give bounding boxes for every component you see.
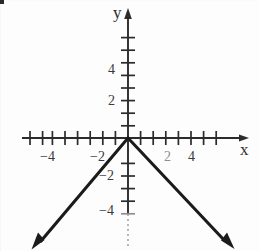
- y-tick-label-4: 4: [108, 63, 115, 77]
- graph-screenshot: −4 −2 2 4 4 2 −2 −4 y x: [0, 0, 259, 251]
- function-curve: [32, 138, 235, 250]
- y-tick-label--2: −2: [99, 169, 114, 183]
- curve-right-arrowhead: [221, 233, 235, 250]
- y-tick-label-2: 2: [108, 94, 115, 108]
- y-axis-arrowhead: [124, 8, 132, 19]
- curve-path: [41, 138, 224, 241]
- y-tick-label--4: −4: [99, 204, 114, 218]
- x-tick-label-2: 2: [164, 150, 171, 164]
- coordinate-plane: [0, 0, 259, 251]
- x-tick-label-4: 4: [188, 150, 195, 164]
- x-axis-label: x: [240, 141, 249, 158]
- x-tick-label--2: −2: [90, 150, 105, 164]
- x-tick-label--4: −4: [40, 150, 55, 164]
- curve-left-arrowhead: [32, 233, 45, 250]
- y-axis-label: y: [113, 4, 122, 21]
